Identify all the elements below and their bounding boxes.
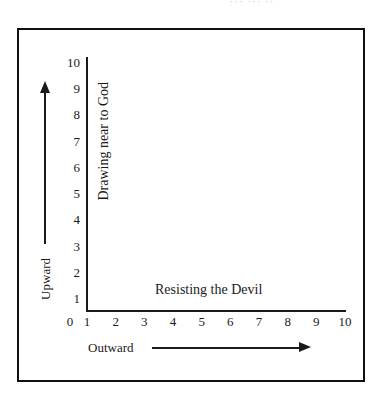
- x-tick-label: 3: [132, 314, 156, 330]
- chart-plot-area: 10 9 8 7 6 5 4 3 2 1 0 1 2 3 4 5 6 7 8 9…: [0, 0, 385, 402]
- y-tick-label: 6: [54, 161, 80, 174]
- y-tick-label: 7: [54, 135, 80, 148]
- outward-axis-caption: Outward: [88, 340, 134, 356]
- y-tick-label: 3: [54, 240, 80, 253]
- x-tick-label: 4: [161, 314, 185, 330]
- y-tick-label: 1: [54, 292, 80, 305]
- x-tick-label: 10: [333, 314, 357, 330]
- y-axis-inner-caption: Drawing near to God: [94, 82, 114, 201]
- outward-arrow-icon: [152, 347, 300, 349]
- x-tick-label: 2: [104, 314, 128, 330]
- x-tick-label: 9: [304, 314, 328, 330]
- y-tick-label: 9: [54, 82, 80, 95]
- y-tick-label: 8: [54, 108, 80, 121]
- x-tick-label: 8: [276, 314, 300, 330]
- x-tick-label: 7: [247, 314, 271, 330]
- upward-arrow-icon: [44, 92, 46, 244]
- y-tick-label: 2: [54, 266, 80, 279]
- y-tick-label: 4: [54, 213, 80, 226]
- x-axis-line: [86, 310, 346, 312]
- x-axis-tick-labels: 1 2 3 4 5 6 7 8 9 10: [0, 314, 385, 332]
- y-axis-tick-labels: 10 9 8 7 6 5 4 3 2 1: [52, 0, 80, 402]
- x-tick-label: 5: [190, 314, 214, 330]
- upward-axis-caption: Upward: [38, 258, 54, 300]
- y-tick-label: 5: [54, 187, 80, 200]
- y-tick-label: 10: [54, 56, 80, 69]
- y-axis-line: [86, 57, 88, 312]
- x-tick-label: 1: [75, 314, 99, 330]
- x-tick-label: 6: [218, 314, 242, 330]
- x-axis-inner-caption: Resisting the Devil: [155, 282, 262, 298]
